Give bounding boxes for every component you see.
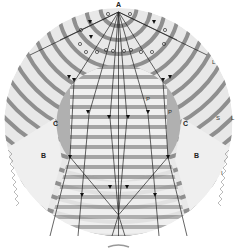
label-inner-p-lower: P — [168, 109, 172, 115]
label-rim-lower-right: I — [221, 170, 223, 176]
label-shadow-right: B — [194, 152, 199, 159]
base-mark — [108, 245, 129, 247]
label-rim-s: S — [216, 115, 220, 121]
wave-ray-diagram: A C C B B L L S I P P — [0, 0, 237, 251]
label-inner-p-upper: P — [146, 96, 150, 102]
label-core-left: C — [53, 120, 58, 127]
label-shadow-left: B — [41, 152, 46, 159]
label-rim-right: L — [231, 115, 235, 121]
label-core-right: C — [183, 120, 188, 127]
label-source-a: A — [116, 1, 121, 8]
